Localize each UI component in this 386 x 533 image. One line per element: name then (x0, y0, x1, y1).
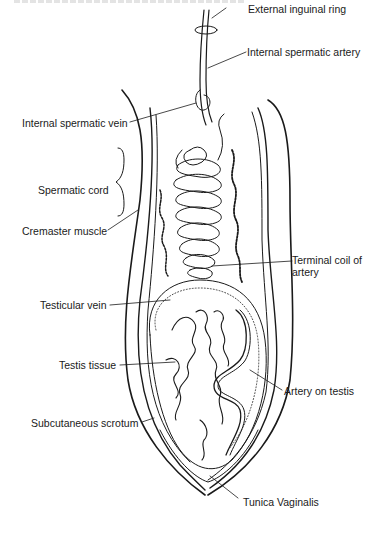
label-internal-spermatic-vein: Internal spermatic vein (22, 117, 128, 129)
label-terminal-coil-of-artery: Terminal coil of artery (292, 254, 372, 278)
testis-tissue (166, 310, 229, 460)
label-tunica-vaginalis: Tunica Vaginalis (243, 496, 319, 508)
pampiniform-plexus (174, 114, 224, 279)
scrotum-outer-right (208, 100, 293, 495)
spermatic-cord-vessel (200, 10, 206, 125)
testis-outline (149, 280, 266, 469)
label-external-inguinal-ring: External inguinal ring (248, 3, 346, 15)
label-cremaster-muscle: Cremaster muscle (22, 225, 107, 237)
label-testis-tissue: Testis tissue (59, 359, 116, 371)
left-venous-chain (160, 190, 168, 276)
label-testicular-vein: Testicular vein (40, 299, 107, 311)
label-subcutaneous-scrotum: Subcutaneous scrotum (31, 417, 138, 429)
label-spermatic-cord: Spermatic cord (38, 184, 109, 196)
right-venous-chain (232, 150, 242, 282)
label-internal-spermatic-artery: Internal spermatic artery (247, 46, 360, 58)
label-artery-on-testis: Artery on testis (284, 385, 354, 397)
